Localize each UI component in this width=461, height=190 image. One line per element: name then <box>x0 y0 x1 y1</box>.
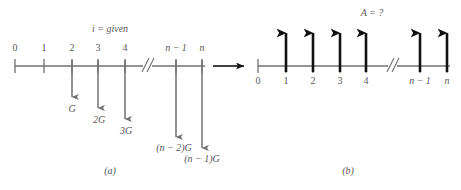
panel-a-header: i = given <box>92 24 128 34</box>
panel-b-tick-label-1: 1 <box>284 76 289 86</box>
panel-a-tick-label-3: 3 <box>96 43 101 53</box>
panel-a-tick-label-n: n <box>200 43 205 53</box>
panel-b-tick-label-n: n <box>445 76 450 86</box>
panel-a-arrows <box>72 60 202 148</box>
panel-a-flow-label-3G: 3G <box>120 126 132 136</box>
panel-b-header: A = ? <box>361 8 384 18</box>
axis-break-b <box>387 58 399 72</box>
panel-b-tick-label-0: 0 <box>256 76 261 86</box>
panel-b-tick-label-n-1: n − 1 <box>409 76 431 86</box>
panel-a-tick-label-0: 0 <box>13 43 18 53</box>
panel-a-tick-label-1: 1 <box>42 43 47 53</box>
panel-a-tick-label-n-1: n − 1 <box>165 43 187 53</box>
panel-b-tick-label-4: 4 <box>364 76 369 86</box>
panel-b-tick-label-2: 2 <box>311 76 316 86</box>
panel-a-caption: (a) <box>104 166 116 176</box>
panel-a-flow-label-2G: 2G <box>93 115 105 125</box>
panel-a-flow-label-n-2-G: (n − 2)G <box>156 143 192 153</box>
panel-a-tick-label-4: 4 <box>123 43 128 53</box>
panel-a-flow-label-n-1-G: (n − 1)G <box>184 154 220 164</box>
panel-a-flow-label-G: G <box>68 104 75 114</box>
panel-b-caption: (b) <box>342 166 354 176</box>
panel-b-tick-label-3: 3 <box>338 76 343 86</box>
cash-flow-figure: i = given 0 1 2 3 4 n − 1 n G 2G 3G (n −… <box>0 0 461 190</box>
axis-break-a <box>142 58 154 72</box>
panel-a-tick-label-2: 2 <box>70 43 75 53</box>
figure-canvas <box>0 0 461 190</box>
